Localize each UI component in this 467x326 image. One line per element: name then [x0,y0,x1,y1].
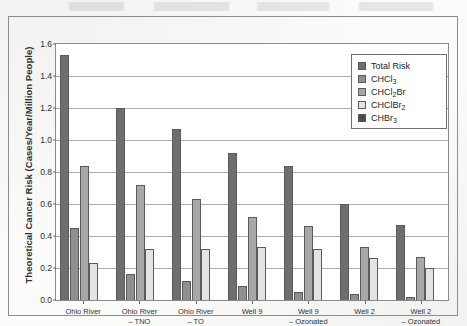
bar [284,166,293,300]
x-axis-label-line1: Well 2 [410,307,431,316]
x-axis-label: Well 9 [224,307,280,326]
y-axis-tick-label: 1.0 [40,135,52,145]
x-axis-tick-cell [168,301,224,305]
bar [369,258,378,300]
y-axis-tick-label: 1.4 [40,71,52,81]
x-axis-tick-mark [421,301,422,304]
bar [60,55,69,300]
x-axis-label-line1: Well 9 [298,307,319,316]
legend-label: CHBr3 [371,113,397,123]
bar-group [168,44,224,300]
bar [116,108,125,300]
y-axis-tick-label: 0.4 [40,231,52,241]
x-axis-label-line1: Well 9 [242,307,263,316]
legend-label: CHCl3 [371,74,396,84]
x-axis-tick-mark [83,301,84,304]
bar [182,281,191,300]
x-axis-labels: Ohio RiverOhio River– TNOOhio River– TOW… [55,307,449,326]
legend-label: Total Risk [371,61,410,71]
bar [228,153,237,300]
y-axis-tick-label: 0.6 [40,199,52,209]
x-axis-tick-cell [280,301,336,305]
x-axis-label-line2: – Ozonated [394,317,448,326]
y-axis-title: Theoretical Cancer Risk (Cases/Year/Mill… [21,27,37,303]
bar [360,247,369,300]
x-axis-label: Ohio River– TNO [111,307,167,326]
x-axis-tick-mark [308,301,309,304]
legend-item: CHBr3 [358,111,441,124]
y-axis-tick-label: 0.8 [40,167,52,177]
bar [238,286,247,300]
bar [257,247,266,300]
bar [416,257,425,300]
y-axis-tick-label: 1.2 [40,103,52,113]
x-axis-tick-mark [196,301,197,304]
bar [406,297,415,300]
bar [304,226,313,300]
legend-swatch [358,62,366,70]
x-axis-tick-cell [393,301,449,305]
x-axis-label: Ohio River [55,307,111,326]
bar [313,249,322,300]
legend-swatch [358,101,366,109]
bar [192,199,201,300]
x-axis-label: Well 2– Ozonated [393,307,449,326]
bar-group [112,44,168,300]
bar-group [56,44,112,300]
legend-swatch [358,114,366,122]
x-axis-tick-cell [111,301,167,305]
x-axis-tick-mark [139,301,140,304]
y-axis-tick-label: 0.0 [40,295,52,305]
x-axis-tick-marks [55,301,449,305]
legend-label: CHClBr2 [371,100,405,110]
bar [136,185,145,300]
legend-item: CHCl3 [358,72,441,85]
bar [172,129,181,300]
x-axis-label-line2: – Ozonated [281,317,335,326]
x-axis-label-line1: Ohio River [65,307,100,316]
x-axis-tick-cell [224,301,280,305]
bar [89,263,98,300]
bar [126,274,135,300]
bar-group [224,44,280,300]
bar [425,268,434,300]
bar [350,294,359,300]
x-axis-tick-mark [252,301,253,304]
x-axis-tick-mark [365,301,366,304]
legend-item: CHCl2Br [358,85,441,98]
x-axis-label-line2: – TNO [112,317,166,326]
x-axis-tick-cell [336,301,392,305]
figure-frame: Theoretical Cancer Risk (Cases/Year/Mill… [8,16,458,316]
bar [294,292,303,300]
bar [201,249,210,300]
x-axis-label-line2: – TO [169,317,223,326]
legend-item: Total Risk [358,59,441,72]
bar [248,217,257,300]
legend: Total RiskCHCl3CHCl2BrCHClBr2CHBr3 [351,54,447,129]
y-axis-tick-label: 1.6 [40,39,52,49]
x-axis-label: Ohio River– TO [168,307,224,326]
legend-label: CHCl2Br [371,87,405,97]
bar [145,249,154,300]
x-axis-label-line1: Ohio River [178,307,213,316]
x-axis-label: Well 2 [336,307,392,326]
bar-group [280,44,336,300]
x-axis-label-line1: Ohio River [122,307,157,316]
legend-swatch [358,88,366,96]
legend-item: CHClBr2 [358,98,441,111]
bar [340,204,349,300]
x-axis-label-line1: Well 2 [354,307,375,316]
bar [396,225,405,300]
x-axis-label: Well 9– Ozonated [280,307,336,326]
bar [80,166,89,300]
bar [70,228,79,300]
y-axis-tick-label: 0.2 [40,263,52,273]
x-axis-tick-cell [55,301,111,305]
legend-swatch [358,75,366,83]
